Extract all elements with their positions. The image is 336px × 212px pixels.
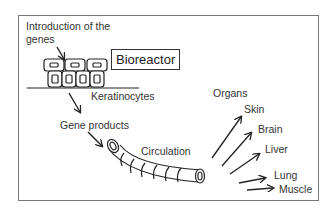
keratinocyte-cells-icon bbox=[44, 59, 107, 87]
to-circulation-arrow-icon bbox=[88, 132, 102, 146]
intro-genes-label: Introduction of the bbox=[26, 20, 110, 32]
organ-skin-label: Skin bbox=[244, 103, 264, 115]
keratinocytes-label: Keratinocytes bbox=[91, 90, 155, 102]
bioreactor-box: Bioreactor bbox=[111, 49, 180, 70]
organ-lung-label: Lung bbox=[274, 169, 297, 181]
organ-liver-label: Liver bbox=[265, 143, 288, 155]
organ-brain-label: Brain bbox=[258, 123, 283, 135]
intro-genes-label-line2: genes bbox=[26, 33, 55, 45]
organ-muscle-label: Muscle bbox=[279, 183, 312, 195]
gene-products-label: Gene products bbox=[60, 119, 129, 131]
intro-arrow-icon bbox=[57, 47, 64, 59]
organs-label: Organs bbox=[213, 87, 247, 99]
circulation-label: Circulation bbox=[141, 145, 191, 157]
to-gene-products-arrow-icon bbox=[69, 93, 80, 112]
